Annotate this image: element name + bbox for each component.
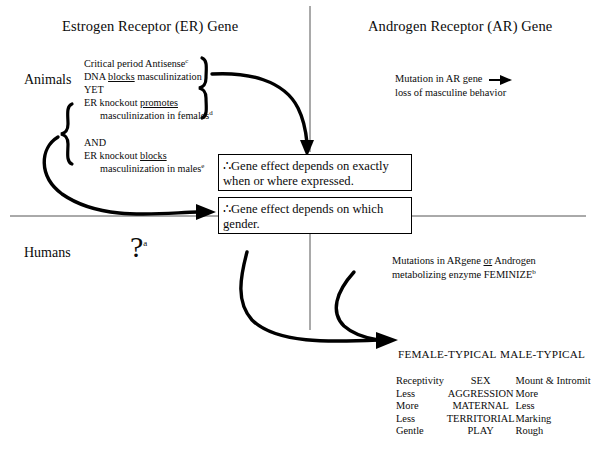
outcome-category-3: TERRITORIAL bbox=[446, 413, 516, 426]
conclusion-box-timing: ∴Gene effect depends on exactly when or … bbox=[218, 154, 412, 191]
outcome-category-1: AGGRESSION bbox=[446, 388, 516, 401]
table-row: Less TERRITORIAL Marking bbox=[396, 413, 592, 426]
human-ar-note-suffix: Androgen bbox=[492, 255, 536, 266]
table-row: More MATERNAL Less bbox=[396, 400, 592, 413]
footnote-ref-b: b bbox=[532, 268, 536, 276]
er-ko-prefix: ER knockout bbox=[84, 97, 140, 108]
arrowhead-to-box2 bbox=[196, 204, 216, 220]
row-label-animals: Animals bbox=[24, 72, 71, 89]
outcome-female-2: More bbox=[396, 400, 446, 413]
outcome-female-4: Gentle bbox=[396, 425, 446, 438]
human-ar-note-line2-text: metabolizing enzyme FEMINIZE bbox=[392, 269, 532, 280]
outcome-table: Receptivity SEX Mount & Intromit Less AG… bbox=[396, 375, 592, 438]
er-finding-yet: YET bbox=[84, 84, 104, 96]
er-ko2-blocks-emphasis: blocks bbox=[140, 150, 167, 161]
outcome-male-0: Mount & Intromit bbox=[516, 375, 592, 388]
outcome-male-4: Rough bbox=[516, 425, 592, 438]
conclusion-box-gender-text: Gene effect depends on which gender. bbox=[223, 202, 383, 231]
human-ar-note-line2: metabolizing enzyme FEMINIZEb bbox=[392, 269, 536, 281]
table-row: Receptivity SEX Mount & Intromit bbox=[396, 375, 592, 388]
outcome-header-female: FEMALE-TYPICAL bbox=[398, 348, 497, 361]
er-finding-knockout-promotes: ER knockout promotes bbox=[84, 97, 178, 109]
conclusion-box-timing-content: ∴Gene effect depends on exactly when or … bbox=[223, 158, 407, 189]
outcome-male-1: More bbox=[516, 388, 592, 401]
arrow-human-ar-to-outcomes bbox=[336, 272, 378, 340]
er-finding-antisense-text: Critical period Antisense bbox=[84, 58, 185, 69]
diagram-canvas: Estrogen Receptor (ER) Gene Androgen Rec… bbox=[0, 0, 592, 450]
outcome-category-2: MATERNAL bbox=[446, 400, 516, 413]
er-finding-knockout-blocks: ER knockout blocks bbox=[84, 150, 167, 162]
er-finding-masc-females: masculinization in femalesd bbox=[100, 110, 213, 122]
outcome-female-3: Less bbox=[396, 413, 446, 426]
therefore-symbol-2: ∴ bbox=[223, 201, 231, 216]
outcome-category-0: SEX bbox=[446, 375, 516, 388]
arrowhead-to-outcomes bbox=[376, 332, 398, 349]
conclusion-box-timing-text: Gene effect depends on exactly when or w… bbox=[223, 159, 389, 188]
er-dna-prefix: DNA bbox=[84, 71, 108, 82]
footnote-ref-e: e bbox=[201, 162, 204, 169]
er-ko-promotes-emphasis: promotes bbox=[140, 97, 178, 108]
er-finding-masc-males: masculinization in malese bbox=[100, 163, 204, 175]
conclusion-box-gender-content: ∴Gene effect depends on which gender. bbox=[223, 201, 407, 232]
ar-mutation-line1: Mutation in AR gene bbox=[395, 73, 482, 85]
er-finding-dna-blocks: DNA blocks masculinization bbox=[84, 71, 202, 83]
er-connector-and: AND bbox=[84, 137, 106, 149]
outcome-male-2: Less bbox=[516, 400, 592, 413]
row-label-humans: Humans bbox=[24, 245, 71, 262]
humans-question-glyph: ? bbox=[130, 230, 143, 263]
er-masc-females-text: masculinization in females bbox=[100, 110, 209, 121]
brace-er-animal-findings bbox=[199, 58, 206, 118]
outcome-category-4: PLAY bbox=[446, 425, 516, 438]
er-finding-antisense: Critical period Antisensec bbox=[84, 58, 188, 70]
table-row: Gentle PLAY Rough bbox=[396, 425, 592, 438]
heading-er-gene: Estrogen Receptor (ER) Gene bbox=[62, 18, 238, 35]
outcome-male-3: Marking bbox=[516, 413, 592, 426]
er-masc-males-text: masculinization in males bbox=[100, 163, 201, 174]
arrow-box2-to-outcomes bbox=[241, 252, 378, 341]
table-row: Less AGGRESSION More bbox=[396, 388, 592, 401]
human-ar-note-or-emphasis: or bbox=[484, 255, 493, 266]
arrow-findings-to-box1 bbox=[212, 74, 307, 143]
outcome-table-body: Receptivity SEX Mount & Intromit Less AG… bbox=[396, 375, 592, 438]
arrow-knockout-to-box2 bbox=[44, 137, 198, 214]
arrowhead-ar-mutation bbox=[500, 75, 512, 85]
human-ar-note-line1: Mutations in ARgene or Androgen bbox=[392, 255, 536, 267]
heading-ar-gene: Androgen Receptor (AR) Gene bbox=[368, 18, 552, 35]
therefore-symbol-1: ∴ bbox=[223, 158, 231, 173]
er-dna-suffix: masculinization bbox=[135, 71, 202, 82]
er-ko2-prefix: ER knockout bbox=[84, 150, 140, 161]
ar-mutation-line2: loss of masculine behavior bbox=[395, 87, 506, 99]
brace-er-knockout-group bbox=[61, 104, 72, 164]
footnote-ref-d: d bbox=[209, 109, 212, 116]
human-ar-note-prefix: Mutations in ARgene bbox=[392, 255, 484, 266]
humans-unknown-question: ?a bbox=[130, 232, 147, 262]
outcome-header-male: MALE-TYPICAL bbox=[500, 348, 585, 361]
outcome-female-1: Less bbox=[396, 388, 446, 401]
footnote-ref-c: c bbox=[185, 57, 188, 64]
conclusion-box-gender: ∴Gene effect depends on which gender. bbox=[218, 197, 412, 234]
outcome-female-0: Receptivity bbox=[396, 375, 446, 388]
footnote-ref-a: a bbox=[143, 238, 147, 248]
er-dna-blocks-emphasis: blocks bbox=[108, 71, 135, 82]
